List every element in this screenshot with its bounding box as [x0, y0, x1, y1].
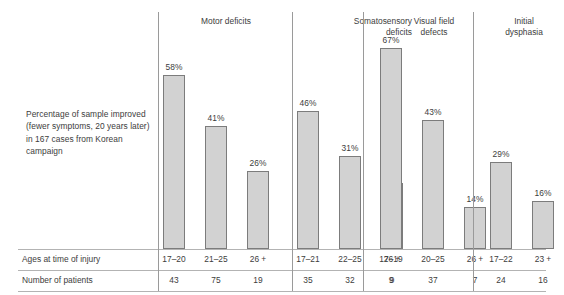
- table-cell-age-range: 21–25: [196, 254, 236, 264]
- table-group-divider: [292, 249, 293, 291]
- group-title: Motor deficits: [168, 16, 284, 27]
- table-cell-patient-count: 16: [523, 275, 563, 285]
- table-cell-patient-count: 24: [481, 275, 521, 285]
- group-title: Initial dysphasia: [488, 16, 560, 38]
- table-cell-age-range: 20–25: [413, 254, 453, 264]
- bar-value-label: 58%: [159, 62, 189, 72]
- chart-figure: Percentage of sample improved (fewer sym…: [0, 0, 564, 295]
- table-row: Ages at time of injury 17–2021–2526 +17–…: [18, 249, 546, 270]
- bar: [422, 120, 444, 249]
- bar-value-label: 31%: [335, 143, 365, 153]
- row-label-patients: Number of patients: [22, 275, 93, 285]
- row-label-ages: Ages at time of injury: [22, 254, 100, 264]
- bar: [339, 156, 361, 249]
- table-cell-patient-count: 75: [196, 275, 236, 285]
- group-title: Visual field defects: [398, 16, 470, 38]
- bar-value-label: 26%: [243, 158, 273, 168]
- table-cell-age-range: 17–19: [371, 254, 411, 264]
- table-rule-bottom: [18, 291, 546, 292]
- bar-value-label: 14%: [460, 194, 490, 204]
- plot-area: Motor deficits58%41%26%Somatosensory def…: [0, 0, 564, 250]
- table-cell-patient-count: 9: [371, 275, 411, 285]
- table-cell-patient-count: 19: [238, 275, 278, 285]
- table-cell-age-range: 17–22: [481, 254, 521, 264]
- table-group-divider: [473, 249, 474, 291]
- bar-value-label: 46%: [293, 98, 323, 108]
- bar: [163, 75, 185, 249]
- bar-value-label: 41%: [201, 113, 231, 123]
- bar: [205, 126, 227, 249]
- table-cell-age-range: 17–21: [288, 254, 328, 264]
- table-cell-patient-count: 32: [330, 275, 370, 285]
- table-row: Number of patients 4375193532993772416: [18, 270, 546, 291]
- group-divider: [473, 12, 474, 249]
- bar: [247, 171, 269, 249]
- bar: [297, 111, 319, 249]
- table-group-divider: [158, 249, 159, 291]
- bar: [380, 48, 402, 249]
- table-cell-age-range: 17–20: [154, 254, 194, 264]
- bar: [464, 207, 486, 249]
- table-cell-patient-count: 43: [154, 275, 194, 285]
- bar-value-label: 67%: [376, 35, 406, 45]
- table-cell-patient-count: 37: [413, 275, 453, 285]
- group-divider: [158, 12, 159, 249]
- table-cell-age-range: 23 +: [523, 254, 563, 264]
- bar-value-label: 43%: [418, 107, 448, 117]
- group-divider: [363, 12, 364, 249]
- bar-value-label: 16%: [528, 188, 558, 198]
- table-cell-age-range: 22–25: [330, 254, 370, 264]
- table-group-divider: [363, 249, 364, 291]
- bar-value-label: 29%: [486, 149, 516, 159]
- table-cell-patient-count: 35: [288, 275, 328, 285]
- bar: [490, 162, 512, 249]
- group-divider: [292, 12, 293, 249]
- bar: [532, 201, 554, 249]
- table-cell-age-range: 26 +: [238, 254, 278, 264]
